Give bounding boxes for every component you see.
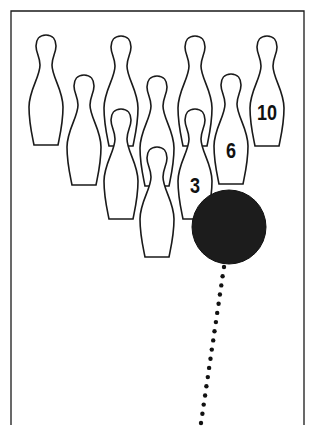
pin-6: 6	[214, 74, 248, 184]
pin-4	[67, 75, 101, 185]
pin-number: 10	[257, 100, 277, 124]
path-dot	[207, 366, 211, 370]
path-dot	[204, 384, 208, 388]
path-dot	[222, 265, 226, 269]
path-dot	[210, 347, 214, 351]
path-dot	[215, 311, 219, 315]
pin-outline	[214, 74, 248, 184]
path-dot	[202, 402, 206, 406]
path-dot	[216, 302, 220, 306]
pin-outline	[29, 35, 63, 145]
pin-outline	[250, 36, 284, 146]
bowling-ball	[192, 190, 266, 264]
pin-number: 6	[226, 138, 236, 162]
path-dot	[214, 320, 218, 324]
pin-outline	[67, 75, 101, 185]
path-dot	[200, 412, 204, 416]
path-dot	[218, 292, 222, 296]
pin-7	[29, 35, 63, 145]
path-dot	[220, 274, 224, 278]
path-dot	[219, 283, 223, 287]
path-dot	[212, 329, 216, 333]
path-dot	[203, 393, 207, 397]
pin-number: 3	[190, 173, 200, 197]
path-dot	[206, 375, 210, 379]
path-dot	[199, 421, 203, 425]
ball-circle	[192, 190, 266, 264]
pin-10: 10	[250, 36, 284, 146]
path-dot	[211, 338, 215, 342]
path-dot	[208, 357, 212, 361]
ball-path-dots	[199, 265, 226, 425]
bowling-diagram: 1063	[0, 0, 313, 437]
